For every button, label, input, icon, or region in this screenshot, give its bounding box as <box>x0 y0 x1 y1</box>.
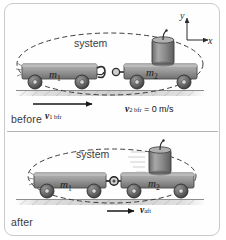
system-label-after: system <box>76 148 109 160</box>
mass-subscript: 2 <box>154 72 158 81</box>
caption-after: after <box>11 216 33 228</box>
mass-subscript: 2 <box>156 183 160 192</box>
physics-collision-figure: system system y x m1 m2 m1 m2 v1 bfr v2 … <box>0 0 226 240</box>
panel-divider <box>7 131 218 132</box>
x-axis-label: x <box>208 35 212 46</box>
velocity-label-v2-before: v2 bfr = 0 m/s <box>125 104 174 114</box>
velocity-subscript: aft <box>144 207 151 214</box>
velocity-value: 0 <box>152 104 157 114</box>
system-label-before: system <box>74 37 107 49</box>
mass-symbol: m <box>60 178 68 190</box>
mass-label-m2-after: m2 <box>148 177 160 192</box>
mass-symbol: m <box>148 177 156 189</box>
mass-symbol: m <box>49 68 57 80</box>
velocity-label-v-after: vaft <box>140 205 151 215</box>
mass-label-m1-before: m1 <box>49 68 61 83</box>
velocity-unit: m/s <box>159 104 174 114</box>
mass-subscript: 1 <box>57 74 61 83</box>
mass-symbol: m <box>146 66 154 78</box>
velocity-equals: = <box>144 104 149 114</box>
y-axis-label: y <box>180 10 184 21</box>
mass-label-m2-before: m2 <box>146 66 158 81</box>
velocity-label-v1-before: v1 bfr <box>45 111 62 121</box>
velocity-subscript: 1 bfr <box>49 113 61 120</box>
mass-label-m1-after: m1 <box>60 178 72 193</box>
mass-subscript: 1 <box>68 184 72 193</box>
caption-before: before <box>11 113 42 125</box>
velocity-subscript: 2 bfr <box>129 106 141 113</box>
